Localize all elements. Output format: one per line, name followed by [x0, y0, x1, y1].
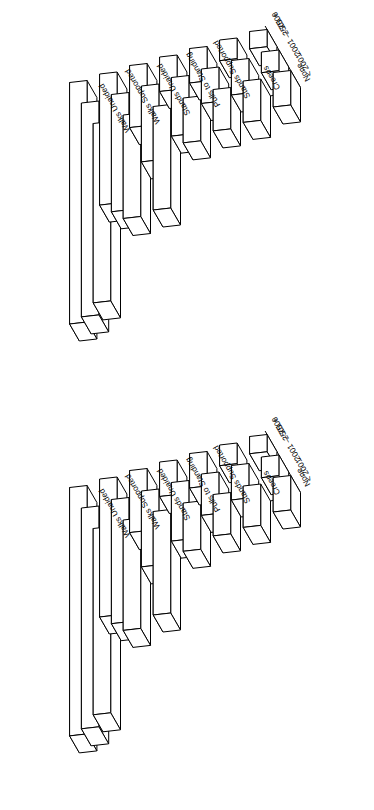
chart-panel-bottom: < 20012001 — 25002501 +Birthweight (gm)N…: [0, 405, 374, 810]
chart-panel-top-canvas: < 20012001 — 25002501 +Birthweight (gm)N…: [0, 0, 374, 405]
chart-panel-top: < 20012001 — 25002501 +Birthweight (gm)N…: [0, 0, 374, 405]
chart-panel-top-svg: < 20012001 — 25002501 +Birthweight (gm)N…: [0, 0, 374, 405]
birthweight-tick-label: 2501 +: [270, 415, 291, 442]
chart-panel-bottom-svg: < 20012001 — 25002501 +Birthweight (gm)N…: [0, 405, 374, 810]
birthweight-tick-label: 2501 +: [270, 10, 291, 37]
chart-panel-bottom-canvas: < 20012001 — 25002501 +Birthweight (gm)N…: [0, 405, 374, 810]
figure-page: < 20012001 — 25002501 +Birthweight (gm)N…: [0, 0, 374, 810]
